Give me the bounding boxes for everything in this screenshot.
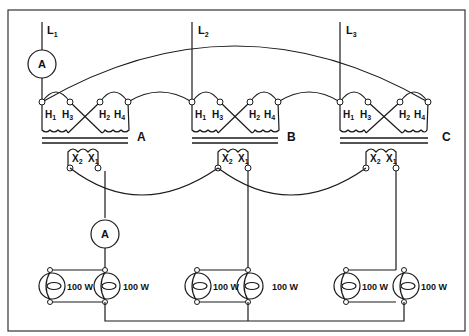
lamp-icon (185, 272, 211, 300)
line-l1-label: L1 (47, 24, 58, 38)
transformer-a: H1 H3 H2 H4 X2 X1 A (39, 92, 146, 171)
svg-text:X2: X2 (222, 153, 233, 165)
lamp-group-b: 100 W 100 W (185, 268, 299, 305)
transformer-b-label: B (287, 130, 296, 144)
primary-arc-a-h1-to-c-h4 (42, 46, 428, 102)
lamp-group-a: 100 W 100 W (39, 268, 150, 305)
svg-text:H2: H2 (249, 109, 260, 121)
transformer-c: H1 H3 H2 H4 X2 X1 C (337, 92, 451, 171)
lamp-rating: 100 W (213, 282, 240, 292)
svg-text:H3: H3 (212, 109, 223, 121)
line-l3-label: L3 (346, 24, 357, 38)
svg-text:X2: X2 (72, 153, 83, 165)
lamp-icon (393, 272, 419, 300)
lamp-group-c: 100 W 100 W (334, 268, 448, 305)
svg-text:H2: H2 (99, 109, 110, 121)
svg-text:H1: H1 (195, 109, 206, 121)
line-l2-label: L2 (198, 24, 209, 38)
svg-text:H4: H4 (414, 109, 425, 121)
lamp-icon (334, 272, 360, 300)
ammeter-l1-label: A (38, 58, 46, 70)
svg-text:X1: X1 (88, 153, 99, 165)
lamp-rating: 100 W (123, 282, 150, 292)
lamp-rating: 100 W (67, 282, 94, 292)
svg-text:H3: H3 (62, 109, 73, 121)
line-l1: A L1 (28, 22, 58, 102)
svg-text:H2: H2 (399, 109, 410, 121)
svg-text:H3: H3 (360, 109, 371, 121)
ammeter-secondary-label: A (101, 228, 109, 240)
lamp-icon (237, 272, 263, 300)
secondary-arc-a-to-b (70, 168, 218, 195)
svg-text:X1: X1 (238, 153, 249, 165)
svg-text:H4: H4 (114, 109, 125, 121)
secondary-arc-b-to-c (218, 168, 366, 195)
lamp-rating: 100 W (272, 282, 299, 292)
common-return-bus (105, 302, 404, 321)
line-l3: L3 (340, 22, 357, 102)
wiring-diagram: A L1 L2 L3 (0, 0, 469, 336)
lamp-rating: 100 W (421, 282, 448, 292)
svg-text:H1: H1 (343, 109, 354, 121)
svg-text:H1: H1 (45, 109, 56, 121)
svg-text:H4: H4 (264, 109, 275, 121)
lamp-rating: 100 W (362, 282, 389, 292)
transformer-a-label: A (137, 130, 146, 144)
lamp-icon (39, 272, 65, 300)
transformer-b: H1 H3 H2 H4 X2 X1 B (189, 92, 296, 171)
primary-arc-a-h4-to-b-h1 (128, 92, 192, 102)
lamp-icon (94, 272, 120, 300)
transformer-c-label: C (442, 130, 451, 144)
line-l2: L2 (192, 22, 209, 102)
primary-arc-b-h4-to-c-h1 (278, 92, 340, 102)
svg-text:X2: X2 (370, 153, 381, 165)
svg-text:X1: X1 (386, 153, 397, 165)
